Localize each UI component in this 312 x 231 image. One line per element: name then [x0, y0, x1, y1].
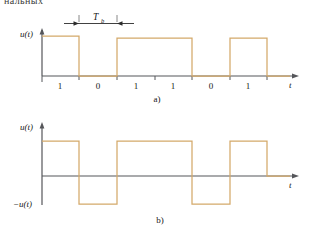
waveform-figure: T b u(t) t 1 0 1 1 0 1 a) u(t) −u(t) t b… — [0, 0, 312, 231]
chart-b-y-arrow — [40, 122, 45, 129]
chart-a-x-arrow — [292, 74, 299, 79]
chart-b-y-axis-negative-label: −u(t) — [13, 199, 32, 209]
chart-a-waveform — [42, 36, 290, 76]
bit-label: 0 — [96, 81, 101, 91]
bit-period-dimension — [64, 15, 134, 26]
chart-a-y-arrow — [40, 28, 45, 35]
bit-label: 1 — [134, 81, 139, 91]
bit-period-label: T — [93, 12, 99, 22]
chart-b-y-axis-label: u(t) — [20, 122, 33, 132]
chart-b-x-axis-label: t — [289, 180, 292, 190]
chart-b-x-arrow — [292, 174, 299, 179]
chart-a-group — [40, 15, 299, 82]
figure-container: нальных — [0, 0, 312, 231]
chart-a-x-axis-label: t — [289, 80, 292, 90]
chart-b-waveform — [42, 141, 290, 204]
caption-b: b) — [156, 215, 164, 225]
bit-label: 1 — [246, 81, 251, 91]
bit-label: 1 — [58, 81, 63, 91]
bit-period-subscript: b — [101, 17, 105, 24]
caption-a: a) — [154, 94, 161, 104]
chart-b-group — [40, 122, 299, 205]
bit-label: 0 — [209, 81, 214, 91]
chart-a-bit-ticks — [42, 76, 267, 82]
chart-a-y-axis-label: u(t) — [20, 29, 33, 39]
bit-label: 1 — [171, 81, 176, 91]
